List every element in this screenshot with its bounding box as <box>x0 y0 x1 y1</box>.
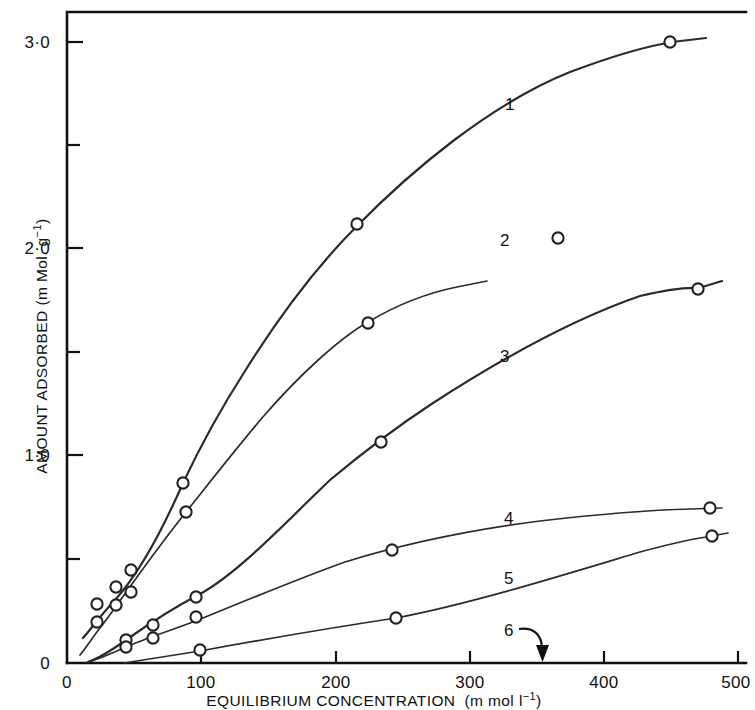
y-axis-ticks <box>67 42 83 559</box>
curve-2-point <box>91 616 102 627</box>
x-tick-label-0: 0 <box>47 674 87 691</box>
curve-label-5: 5 <box>504 570 513 587</box>
axis-frame-left-top <box>67 12 746 663</box>
x-axis-title-text: EQUILIBRIUM CONCENTRATION <box>206 692 455 709</box>
curve-5-point <box>390 612 401 623</box>
curve-4-point <box>147 632 158 643</box>
curve-1-point <box>125 564 136 575</box>
x-axis-ticks <box>201 651 738 663</box>
curve-5-point <box>194 644 205 655</box>
x-tick-label-500: 500 <box>706 674 755 691</box>
curve-4-point <box>704 502 715 513</box>
curve-2-point <box>125 586 136 597</box>
x-tick-label-300: 300 <box>440 674 500 691</box>
curve-4 <box>88 502 722 662</box>
curve-label-2: 2 <box>500 232 509 249</box>
y-axis-title: AMOUNT ADSORBED (m Mol. g−1) <box>31 181 51 511</box>
curve-3 <box>88 281 722 662</box>
x-tick-label-400: 400 <box>574 674 634 691</box>
curve-1-point <box>351 218 362 229</box>
curve-4-point <box>190 611 201 622</box>
curve-2-point <box>110 599 121 610</box>
curve-1-point <box>664 36 675 47</box>
curve-label-1: 1 <box>505 96 514 113</box>
curve-2 <box>80 232 564 655</box>
curve-1-point <box>91 598 102 609</box>
y-tick-label-0: 0 <box>0 655 50 672</box>
curve-5-point <box>706 530 717 541</box>
y-tick-label-3: 3·0 <box>0 34 50 51</box>
curve-2-path <box>80 281 487 655</box>
curve-1-point <box>177 477 188 488</box>
curve-1-point <box>110 581 121 592</box>
curve-3-point <box>190 591 201 602</box>
x-axis-title: EQUILIBRIUM CONCENTRATION(m mol l−1) <box>0 690 748 710</box>
curve-label-3: 3 <box>500 348 509 365</box>
x-tick-label-100: 100 <box>171 674 231 691</box>
curve-3-point <box>375 436 386 447</box>
curve-5-path <box>124 533 728 663</box>
curve-label-6: 6 <box>504 622 513 639</box>
curve-4-path <box>88 508 722 662</box>
x-tick-label-200: 200 <box>306 674 366 691</box>
curve-4-point <box>120 641 131 652</box>
curve-label-4: 4 <box>504 510 513 527</box>
curve-6-arrow-annotation <box>519 629 549 662</box>
curve-3-point <box>147 619 158 630</box>
curve-3-path <box>88 281 722 662</box>
curve-4-point <box>386 544 397 555</box>
curve-5 <box>124 530 728 663</box>
curve-2-point <box>362 317 373 328</box>
curve-2-point <box>552 232 563 243</box>
curve-2-point <box>180 506 191 517</box>
curve-3-point <box>692 283 703 294</box>
arrow-head-icon <box>536 645 549 662</box>
